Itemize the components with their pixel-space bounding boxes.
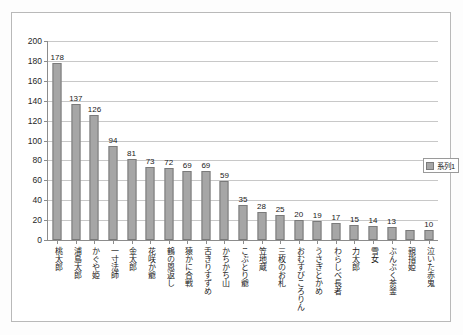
bar-series-group: 178桃太郎137浦島太郎126かぐや姫94一寸法師81金太郎73花咲か爺72鶴…: [48, 41, 438, 240]
bar[interactable]: [257, 212, 266, 240]
y-axis-tick-label: 200: [28, 36, 42, 46]
x-axis-tick: [94, 240, 95, 244]
bar-slot: 17わらしべ長者: [327, 41, 346, 240]
bar-value-label: 28: [257, 202, 266, 211]
bar-value-label: 126: [88, 105, 101, 114]
y-axis-tick-label: 0: [37, 235, 42, 245]
bar-slot: 13ぶんぶく茶釜: [382, 41, 401, 240]
x-axis-category-label: かちかち山: [220, 247, 229, 287]
bar[interactable]: [313, 221, 322, 240]
y-axis-tick: [44, 240, 48, 241]
x-axis-tick: [280, 240, 281, 244]
x-axis-category-label: 金太郎: [127, 247, 136, 271]
bar[interactable]: [276, 215, 285, 240]
bar-value-label: 10: [424, 220, 433, 229]
x-axis-category-label: 三枚のお札: [276, 247, 285, 287]
y-axis-tick-label: 160: [28, 76, 42, 86]
x-axis-tick: [224, 240, 225, 244]
bar-slot: 25三枚のお札: [271, 41, 290, 240]
x-axis-category-label: 泣いた赤鬼: [424, 247, 433, 287]
bar-value-label: 178: [51, 53, 64, 62]
bar[interactable]: [108, 146, 117, 240]
y-axis-tick-label: 80: [33, 155, 42, 165]
bar[interactable]: [53, 63, 62, 240]
y-axis-tick-label: 140: [28, 96, 42, 106]
bar[interactable]: [294, 220, 303, 240]
x-axis-tick: [132, 240, 133, 244]
bar-value-label: 19: [313, 211, 322, 220]
bar-slot: 15力太郎: [345, 41, 364, 240]
bar-slot: 81金太郎: [122, 41, 141, 240]
x-axis-tick: [429, 240, 430, 244]
x-axis-tick: [113, 240, 114, 244]
y-axis-tick-label: 40: [33, 195, 42, 205]
bar-value-label: 59: [220, 171, 229, 180]
bar[interactable]: [220, 181, 229, 240]
x-axis-tick: [150, 240, 151, 244]
bar[interactable]: [387, 227, 396, 240]
bar[interactable]: [406, 230, 415, 240]
bar[interactable]: [183, 171, 192, 240]
bar[interactable]: [201, 171, 210, 240]
bar-slot: 72鶴の恩返し: [159, 41, 178, 240]
bar[interactable]: [146, 167, 155, 240]
bar[interactable]: [368, 226, 377, 240]
bar-slot: 14雪女: [364, 41, 383, 240]
x-axis-category-label: かぐや姫: [90, 247, 99, 279]
legend-label-series1: 系列1: [437, 160, 455, 171]
x-axis-category-label: 雪女: [369, 247, 378, 263]
y-axis-tick-label: 60: [33, 175, 42, 185]
bar[interactable]: [331, 223, 340, 240]
bar-slot: 94一寸法師: [104, 41, 123, 240]
bar[interactable]: [238, 205, 247, 240]
y-axis-tick-label: 20: [33, 215, 42, 225]
x-axis-category-label: 舌きりすずめ: [202, 247, 211, 295]
bar-slot: 126かぐや姫: [85, 41, 104, 240]
chart-frame: 020406080100120140160180200 178桃太郎137浦島太…: [11, 12, 451, 322]
bar-value-label: 94: [109, 136, 118, 145]
bar[interactable]: [127, 159, 136, 240]
bar-value-label: 137: [69, 94, 82, 103]
y-axis-tick-label: 180: [28, 56, 42, 66]
x-axis-tick: [262, 240, 263, 244]
bar[interactable]: [164, 168, 173, 240]
x-axis-tick: [206, 240, 207, 244]
bar-value-label: 25: [276, 205, 285, 214]
bar-value-label: 13: [387, 217, 396, 226]
bar-slot: 69猿かに合戦: [178, 41, 197, 240]
bar-slot: 28笠地蔵: [252, 41, 271, 240]
x-axis-tick: [373, 240, 374, 244]
x-axis-tick: [317, 240, 318, 244]
bar[interactable]: [71, 104, 80, 240]
x-axis-tick: [336, 240, 337, 244]
bar-slot: 親指姫: [401, 41, 420, 240]
bar[interactable]: [90, 115, 99, 240]
x-axis-category-label: 笠地蔵: [257, 247, 266, 271]
x-axis-category-label: ぶんぶく茶釜: [387, 247, 396, 295]
bar-value-label: 69: [183, 161, 192, 170]
x-axis-tick: [57, 240, 58, 244]
bar-value-label: 72: [164, 158, 173, 167]
x-axis-tick: [169, 240, 170, 244]
legend-swatch-icon: [426, 162, 434, 170]
bar[interactable]: [424, 230, 433, 240]
bar-slot: 35こぶとり爺: [234, 41, 253, 240]
x-axis-category-label: 花咲か爺: [146, 247, 155, 279]
bar-value-label: 14: [369, 216, 378, 225]
x-axis-tick: [243, 240, 244, 244]
x-axis-tick: [187, 240, 188, 244]
bar-slot: 19うさぎとかめ: [308, 41, 327, 240]
x-axis-category-label: 親指姫: [406, 247, 415, 271]
x-axis-category-label: 浦島太郎: [72, 247, 81, 279]
bar-slot: 178桃太郎: [48, 41, 67, 240]
chart-legend[interactable]: 系列1: [423, 158, 459, 173]
bar[interactable]: [350, 225, 359, 240]
x-axis-category-label: おむすびころりん: [294, 247, 303, 311]
x-axis-tick: [392, 240, 393, 244]
x-axis-category-label: 桃太郎: [53, 247, 62, 271]
bar-value-label: 15: [350, 215, 359, 224]
bar-slot: 137浦島太郎: [67, 41, 86, 240]
bar-value-label: 73: [146, 157, 155, 166]
y-axis-tick-label: 120: [28, 116, 42, 126]
x-axis-category-label: うさぎとかめ: [313, 247, 322, 295]
